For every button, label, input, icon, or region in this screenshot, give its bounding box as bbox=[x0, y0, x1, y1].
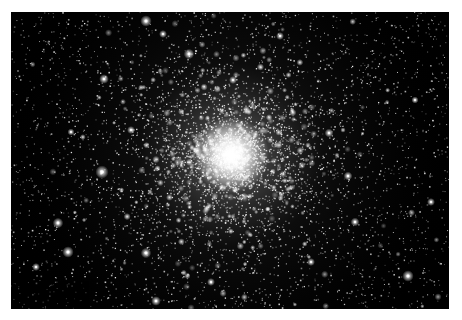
globular-cluster-photo: Dense globular star cluster on black sky… bbox=[11, 12, 449, 309]
star-field-canvas bbox=[11, 12, 449, 309]
